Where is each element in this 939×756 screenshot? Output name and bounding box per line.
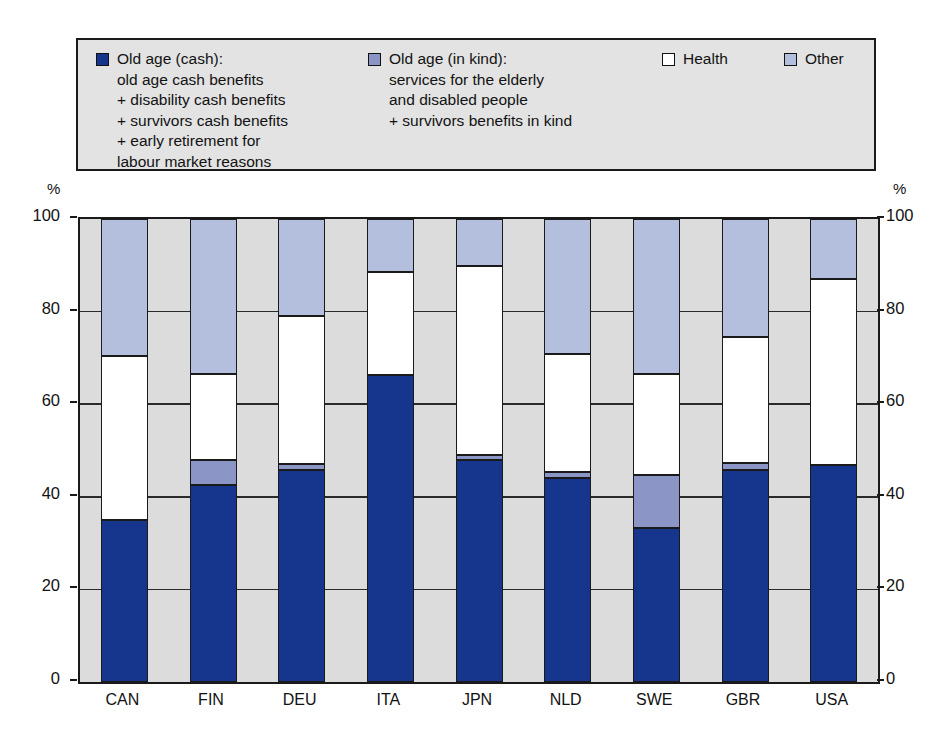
bar-segment-old-age-in-kind[interactable]	[279, 464, 324, 470]
bar-segment-health[interactable]	[279, 316, 324, 464]
bar-ita[interactable]	[367, 219, 414, 682]
x-axis-tick-ita: ITA	[353, 691, 423, 709]
bar-segment-old-age-cash[interactable]	[102, 520, 147, 682]
bar-segment-other[interactable]	[102, 219, 147, 356]
bar-segment-other[interactable]	[368, 219, 413, 272]
bar-segment-other[interactable]	[723, 219, 768, 337]
y-axis-tickmark-right	[877, 216, 884, 218]
bar-segment-health[interactable]	[811, 279, 856, 465]
legend-label-old-age-cash: Old age (cash): old age cash benefits + …	[117, 49, 288, 172]
y-axis-tickmark-right	[877, 401, 884, 403]
bar-nld[interactable]	[544, 219, 591, 682]
bar-gbr[interactable]	[722, 219, 769, 682]
chart-legend: Old age (cash): old age cash benefits + …	[76, 38, 876, 171]
legend-label-health: Health	[683, 49, 728, 70]
bar-segment-old-age-cash[interactable]	[368, 375, 413, 682]
y-axis-tickmark-left	[70, 679, 77, 681]
y-axis-tick-left: 80	[14, 299, 60, 318]
x-axis-tick-can: CAN	[87, 691, 157, 709]
y-axis-tickmark-right	[877, 494, 884, 496]
bar-segment-old-age-in-kind[interactable]	[191, 460, 236, 485]
bar-segment-old-age-cash[interactable]	[457, 460, 502, 682]
legend-label-other: Other	[805, 49, 844, 70]
y-axis-tick-left: 60	[14, 391, 60, 410]
bar-segment-old-age-cash[interactable]	[545, 478, 590, 682]
y-axis-tickmark-right	[877, 586, 884, 588]
legend-swatch-health	[662, 53, 675, 66]
y-axis-tickmark-left	[70, 494, 77, 496]
bar-segment-old-age-in-kind[interactable]	[545, 472, 590, 478]
bar-deu[interactable]	[278, 219, 325, 682]
bar-segment-old-age-in-kind[interactable]	[723, 463, 768, 470]
bars-layer	[80, 219, 878, 682]
bar-fin[interactable]	[190, 219, 237, 682]
bar-segment-old-age-cash[interactable]	[723, 470, 768, 682]
x-axis-tick-nld: NLD	[531, 691, 601, 709]
bar-segment-old-age-in-kind[interactable]	[457, 455, 502, 460]
bar-segment-health[interactable]	[102, 356, 147, 520]
y-axis-tick-right: 40	[886, 484, 932, 503]
y-axis-tickmark-right	[877, 679, 884, 681]
legend-swatch-other	[784, 53, 797, 66]
chart-plot-area	[78, 217, 880, 684]
y-axis-tickmark-right	[877, 309, 884, 311]
y-axis-tickmark-left	[70, 309, 77, 311]
bar-segment-old-age-cash[interactable]	[191, 485, 236, 682]
bar-usa[interactable]	[810, 219, 857, 682]
bar-segment-other[interactable]	[279, 219, 324, 316]
y-axis-tick-right: 100	[886, 206, 932, 225]
x-axis-tick-jpn: JPN	[442, 691, 512, 709]
legend-swatch-old-age-in-kind	[368, 53, 381, 66]
y-axis-tick-left: 0	[14, 669, 60, 688]
y-axis-tick-right: 0	[886, 669, 932, 688]
bar-swe[interactable]	[633, 219, 680, 682]
bar-can[interactable]	[101, 219, 148, 682]
y-axis-tick-right: 80	[886, 299, 932, 318]
legend-swatch-old-age-cash	[96, 53, 109, 66]
y-axis-tick-right: 20	[886, 576, 932, 595]
y-axis-tickmark-left	[70, 401, 77, 403]
bar-segment-old-age-in-kind[interactable]	[634, 475, 679, 528]
bar-jpn[interactable]	[456, 219, 503, 682]
legend-item-old-age-in-kind: Old age (in kind): services for the elde…	[368, 49, 572, 131]
bar-segment-health[interactable]	[191, 374, 236, 460]
bar-segment-other[interactable]	[545, 219, 590, 354]
bar-segment-old-age-cash[interactable]	[634, 528, 679, 682]
x-axis-tick-usa: USA	[797, 691, 867, 709]
bar-segment-other[interactable]	[191, 219, 236, 374]
bar-segment-other[interactable]	[457, 219, 502, 266]
bar-segment-health[interactable]	[368, 272, 413, 375]
bar-segment-health[interactable]	[634, 374, 679, 475]
bar-segment-other[interactable]	[811, 219, 856, 279]
bar-segment-health[interactable]	[723, 337, 768, 463]
x-axis-tick-deu: DEU	[265, 691, 335, 709]
x-axis-tick-fin: FIN	[176, 691, 246, 709]
y-axis-tickmark-left	[70, 216, 77, 218]
legend-item-old-age-cash: Old age (cash): old age cash benefits + …	[96, 49, 288, 172]
y-axis-tick-left: 100	[14, 206, 60, 225]
x-axis-tick-swe: SWE	[619, 691, 689, 709]
y-axis-unit-left: %	[47, 180, 60, 197]
y-axis-unit-right: %	[893, 180, 906, 197]
bar-segment-other[interactable]	[634, 219, 679, 374]
bar-segment-old-age-cash[interactable]	[811, 465, 856, 682]
x-axis-tick-gbr: GBR	[708, 691, 778, 709]
bar-segment-health[interactable]	[545, 354, 590, 472]
y-axis-tickmark-left	[70, 586, 77, 588]
y-axis-tick-right: 60	[886, 391, 932, 410]
bar-segment-old-age-cash[interactable]	[279, 470, 324, 682]
legend-item-other: Other	[784, 49, 844, 70]
y-axis-tick-left: 40	[14, 484, 60, 503]
bar-segment-health[interactable]	[457, 266, 502, 455]
y-axis-tick-left: 20	[14, 576, 60, 595]
legend-item-health: Health	[662, 49, 728, 70]
legend-label-old-age-in-kind: Old age (in kind): services for the elde…	[389, 49, 572, 131]
